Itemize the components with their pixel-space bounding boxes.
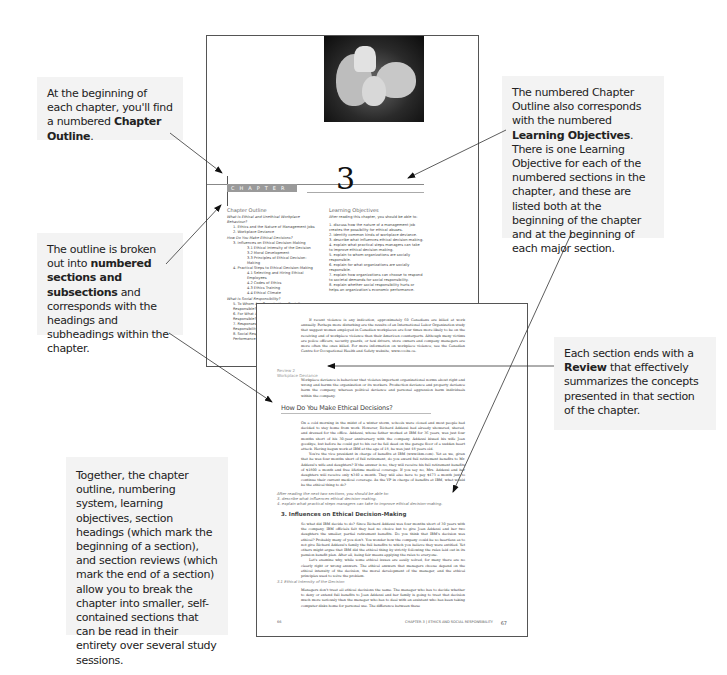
callout-emphasis: Review: [564, 361, 607, 374]
subsubsection-heading: 3.1 Ethical Intensity of the Decision: [277, 579, 344, 584]
chapter-body-page: If recent violence is any indication, ap…: [256, 303, 528, 637]
chapter-photo-hens: [324, 36, 424, 122]
section-body: On a cold morning in the midst of a wint…: [301, 421, 465, 489]
callout-review: Each section ends with a Review that eff…: [554, 337, 716, 430]
callout-text-end: . There is one Learning Objective for ea…: [512, 129, 645, 256]
section-heading: How Do You Make Ethical Decisions?: [281, 404, 431, 414]
callout-together: Together, the chapter outline, numbering…: [66, 457, 228, 635]
learning-objectives: Learning Objectives After reading this c…: [329, 208, 424, 293]
callout-sections: The outline is broken out into numbered …: [37, 233, 183, 335]
callout-chapter-outline: At the beginning of each chapter, you'll…: [37, 77, 183, 140]
outline-item: 2. Workplace Deviance: [227, 230, 317, 235]
page-connector: [206, 366, 256, 367]
section-learning-objectives: After reading the next two sections, you…: [277, 491, 442, 506]
callout-text: The numbered Chapter Outline also corres…: [512, 86, 641, 127]
callout-text-end: .: [90, 130, 93, 143]
outline-subitem: 4.4 Ethical Climate: [227, 291, 317, 296]
learning-objectives-title: Learning Objectives: [329, 208, 424, 213]
outline-subitem: 4.1 Selecting and Hiring Ethical Employe…: [227, 271, 317, 281]
outline-group: What Is Ethical and Unethical Workplace …: [227, 215, 317, 225]
callout-text: Together, the chapter outline, numbering…: [76, 469, 217, 667]
paragraph: On a cold morning in the midst of a wint…: [301, 421, 465, 452]
page-footer: 66 CHAPTER 3 | ETHICS AND SOCIAL RESPONS…: [277, 620, 507, 624]
callout-learning-objectives: The numbered Chapter Outline also corres…: [502, 76, 664, 238]
chapter-rule-secondary: [307, 192, 424, 193]
chapter-outline-title: Chapter Outline: [227, 208, 317, 213]
callout-emphasis: Learning Objectives: [512, 129, 630, 142]
footer-page-number: 67: [501, 620, 507, 626]
subsection-heading: 3. Influences on Ethical Decision-Making: [281, 511, 406, 517]
subsubsection-body: Managers don't treat all ethical decisio…: [301, 588, 465, 609]
outline-subitem: 3.3 Principles of Ethical Decision-Makin…: [227, 256, 317, 266]
review-text: Workplace deviance is behaviour that vio…: [301, 378, 465, 399]
intro-paragraph: If recent violence is any indication, ap…: [301, 318, 465, 354]
chapter-number: 3: [336, 164, 355, 194]
objective-item: 6. explain for what organizations are so…: [329, 263, 424, 273]
footer-left-page: 66: [277, 620, 281, 624]
objective-item: 5. explain to whom organizations are soc…: [329, 253, 424, 263]
paragraph: You're the vice president in charge of b…: [301, 452, 465, 488]
paragraph: Managers don't treat all ethical decisio…: [301, 588, 465, 609]
objective-item: 8. explain whether social responsibility…: [329, 283, 424, 293]
footer-chapter: CHAPTER 3: [405, 620, 425, 624]
footer-running-head: CHAPTER 3 | ETHICS AND SOCIAL RESPONSIBI…: [405, 620, 493, 624]
callout-text: Each section ends with a: [564, 347, 694, 360]
objectives-intro: After reading this chapter, you should b…: [329, 215, 424, 220]
section-review: Review 2 Workplace Deviance: [277, 368, 318, 378]
paragraph: If recent violence is any indication, ap…: [301, 318, 465, 354]
paragraph: Workplace deviance is behaviour that vio…: [301, 378, 465, 399]
objective-item: 4. explain what practical steps managers…: [329, 243, 424, 253]
objective-item: 7. explain how organizations can choose …: [329, 273, 424, 283]
subsection-body: So what did IBM decide to do? Since Rich…: [301, 522, 465, 579]
paragraph: Let's examine why, while some ethical is…: [301, 558, 465, 579]
footer-title: ETHICS AND SOCIAL RESPONSIBILITY: [428, 620, 493, 624]
paragraph: So what did IBM decide to do? Since Rich…: [301, 522, 465, 558]
objective-item: 1. discuss how the nature of a managemen…: [329, 223, 424, 233]
lo-item: 4. explain what practical steps managers…: [277, 501, 442, 506]
chapter-label: CHAPTER: [227, 184, 297, 192]
